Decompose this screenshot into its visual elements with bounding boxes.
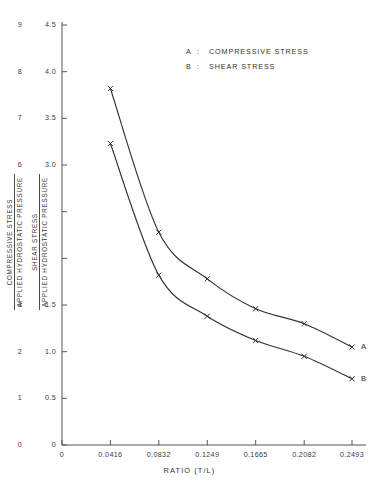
y-axis-left-tick-label: 8 [0, 67, 22, 76]
x-axis-tick-label: 0.0832 [133, 450, 185, 459]
x-axis-title: RATIO (T/L) [0, 466, 379, 475]
series-end-label-a: A [361, 342, 367, 351]
chart-legend: A : COMPRESSIVE STRESS B : SHEAR STRESS [186, 47, 309, 76]
data-point-marker [108, 141, 113, 146]
y-axis-left-tick-label: 2 [0, 347, 22, 356]
y-axis-ticks [62, 25, 67, 445]
legend-separator-a: : [197, 47, 209, 56]
x-axis-tick-label: 0.1665 [230, 450, 282, 459]
x-axis-tick-label: 0.2493 [326, 450, 378, 459]
y-axis-right-tick-label: 3.0 [32, 160, 56, 169]
legend-key-b: B [186, 62, 197, 71]
data-point-marker [156, 273, 161, 278]
series-end-label-b: B [361, 374, 367, 383]
data-point-marker [253, 338, 258, 343]
series-line-b [110, 144, 352, 379]
series-a [108, 86, 355, 350]
x-axis-tick-label: 0.2082 [278, 450, 330, 459]
y-axis-right-title-denominator: APPLIED HYDROSTATIC PRESSURE [39, 174, 48, 310]
y-axis-left-title-numerator: COMPRESSIVE STRESS [6, 174, 14, 310]
x-axis-tick-label: 0.1249 [181, 450, 233, 459]
y-axis-right-tick-label: 4.5 [32, 20, 56, 29]
y-axis-left-tick-label: 6 [0, 160, 22, 169]
series-b [108, 141, 355, 381]
y-axis-right-tick-label: 0.5 [32, 393, 56, 402]
y-axis-left-tick-label: 7 [0, 113, 22, 122]
y-axis-right-title-numerator: SHEAR STRESS [31, 174, 39, 310]
data-point-marker [205, 314, 210, 319]
y-axis-right-tick-label: 3.5 [32, 113, 56, 122]
y-axis-left-tick-label: 9 [0, 20, 22, 29]
y-axis-left-title-denominator: APPLIED HYDROSTATIC PRESSURE [14, 174, 23, 310]
y-axis-right-tick-label: 1.0 [32, 347, 56, 356]
legend-separator-b: : [197, 62, 209, 71]
y-axis-right-title: SHEAR STRESS APPLIED HYDROSTATIC PRESSUR… [31, 174, 48, 310]
legend-item-b: B : SHEAR STRESS [186, 62, 309, 71]
legend-label-b: SHEAR STRESS [209, 62, 275, 71]
data-point-marker [156, 230, 161, 235]
data-point-marker [302, 321, 307, 326]
data-point-marker [349, 344, 354, 349]
y-axis-right-tick-label: 0 [32, 440, 56, 449]
y-axis-left-tick-label: 0 [0, 440, 22, 449]
x-axis-ticks [62, 440, 352, 445]
data-point-marker [302, 354, 307, 359]
data-series-layer [108, 86, 355, 381]
x-axis-tick-label: 0.0416 [84, 450, 136, 459]
y-axis-left-title: COMPRESSIVE STRESS APPLIED HYDROSTATIC P… [6, 174, 23, 310]
data-point-marker [253, 306, 258, 311]
y-axis-left-tick-label: 1 [0, 393, 22, 402]
x-axis-tick-label: 0 [36, 450, 88, 459]
data-point-marker [349, 376, 354, 381]
legend-label-a: COMPRESSIVE STRESS [209, 47, 309, 56]
series-line-a [110, 88, 352, 347]
legend-item-a: A : COMPRESSIVE STRESS [186, 47, 309, 56]
data-point-marker [205, 276, 210, 281]
chart-figure: 01236789 00.51.01.53.03.54.04.5 00.04160… [0, 0, 379, 488]
legend-key-a: A [186, 47, 197, 56]
y-axis-right-tick-label: 4.0 [32, 67, 56, 76]
